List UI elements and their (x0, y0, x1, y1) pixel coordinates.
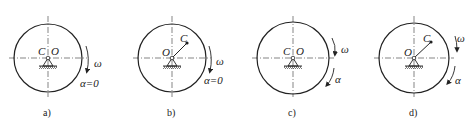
omega-label: ω (457, 32, 465, 44)
alpha-arrow-icon (327, 68, 334, 85)
caption-d: d) (409, 107, 417, 119)
omega-label: ω (216, 55, 224, 67)
caption-a: a) (43, 107, 51, 119)
omega-arrow-icon (209, 46, 211, 71)
omega-arrow-icon (332, 38, 335, 54)
alpha-arrow-icon (448, 66, 455, 83)
mass-center-label: C (423, 32, 431, 44)
mass-center-label: C (38, 45, 46, 57)
pivot-label: O (404, 46, 412, 58)
alpha-label: α (335, 73, 341, 85)
panel-d: C O ω α d) (374, 16, 465, 119)
mass-center-label: C (180, 32, 188, 44)
omega-arrow-icon (86, 46, 88, 71)
eccentric-arm (414, 42, 431, 58)
pivot-label: O (162, 46, 170, 58)
panel-b: C O ω α=0 b) (133, 16, 224, 119)
alpha-label: α=0 (204, 74, 223, 86)
panel-a: C O ω α=0 a) (9, 16, 102, 119)
pivot-label: O (51, 45, 59, 57)
alpha-label: α=0 (80, 77, 99, 89)
omega-label: ω (341, 43, 349, 55)
mass-center-label: C (283, 45, 291, 57)
alpha-label: α (455, 74, 461, 86)
pivot-label: O (296, 45, 304, 57)
caption-b: b) (167, 107, 175, 119)
rotating-disk-figure: C O ω α=0 a) C O ω α=0 b) (0, 0, 474, 127)
panel-c: C O ω α c) (252, 16, 349, 119)
caption-c: c) (288, 107, 296, 119)
eccentric-arm (172, 43, 187, 58)
omega-label: ω (94, 57, 102, 69)
